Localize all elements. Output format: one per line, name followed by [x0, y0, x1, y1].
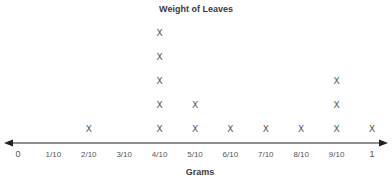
data-point-x-mark: X: [157, 52, 163, 62]
data-point-x-mark: X: [298, 124, 304, 134]
x-tick-label: 9/10: [329, 150, 345, 159]
data-point-x-mark: X: [192, 100, 198, 110]
x-tick-label: 6/10: [223, 150, 239, 159]
axis-arrow-left-icon: [4, 140, 13, 147]
axis-arrow-right-icon: [379, 140, 388, 147]
x-tick-label: 1/10: [46, 150, 62, 159]
data-point-x-mark: X: [157, 100, 163, 110]
x-axis-label: Grams: [186, 167, 215, 177]
line-plot-chart: Weight of Leaves XXXXXXXXXXXXXXX 01/102/…: [0, 0, 392, 181]
x-tick-label: 5/10: [187, 150, 203, 159]
data-point-x-mark: X: [334, 100, 340, 110]
data-point-x-mark: X: [369, 124, 375, 134]
x-tick-label: 2/10: [81, 150, 97, 159]
data-point-x-mark: X: [334, 76, 340, 86]
x-tick-label: 4/10: [152, 150, 168, 159]
x-tick-label: 3/10: [116, 150, 132, 159]
data-point-x-mark: X: [192, 124, 198, 134]
x-tick-labels: 01/102/103/104/105/106/107/108/109/101: [15, 149, 374, 159]
data-point-x-mark: X: [157, 28, 163, 38]
x-tick-label: 1: [369, 149, 374, 159]
data-point-x-mark: X: [86, 124, 92, 134]
data-point-x-mark: X: [157, 124, 163, 134]
x-tick-label: 0: [15, 149, 20, 159]
data-point-x-mark: X: [334, 124, 340, 134]
x-tick-label: 7/10: [258, 150, 274, 159]
x-tick-label: 8/10: [293, 150, 309, 159]
data-point-x-mark: X: [263, 124, 269, 134]
data-point-x-mark: X: [227, 124, 233, 134]
data-marks: XXXXXXXXXXXXXXX: [86, 28, 375, 134]
chart-title: Weight of Leaves: [159, 4, 233, 14]
data-point-x-mark: X: [157, 76, 163, 86]
